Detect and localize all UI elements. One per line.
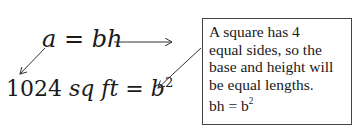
arrow-down-left-icon (20, 48, 45, 74)
arrow-down-left-icon (158, 48, 201, 88)
